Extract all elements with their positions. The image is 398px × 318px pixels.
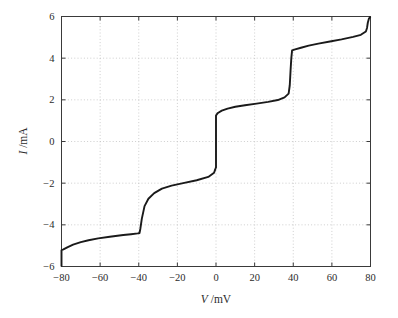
x-axis-label: V /mV (201, 293, 232, 305)
y-tick-label: 6 (49, 11, 54, 22)
chart-background (0, 0, 398, 318)
iv-curve-chart: −80−60−40−20020406080 −6−4−20246 V /mV I… (0, 0, 398, 318)
x-tick-label: 20 (249, 272, 260, 283)
y-tick-label: 0 (49, 136, 54, 147)
x-tick-label: 80 (365, 272, 376, 283)
y-tick-label: −2 (43, 178, 54, 189)
y-tick-label: −6 (43, 261, 54, 272)
x-tick-label: −20 (169, 272, 185, 283)
x-tick-label: −60 (92, 272, 108, 283)
y-tick-label: −4 (43, 219, 55, 230)
x-tick-label: −80 (53, 272, 69, 283)
x-tick-labels: −80−60−40−20020406080 (53, 272, 375, 283)
y-tick-label: 4 (49, 53, 55, 64)
y-axis-title: I /mA (17, 127, 29, 156)
y-axis-label: I /mA (17, 127, 29, 156)
x-tick-label: 40 (288, 272, 299, 283)
x-axis-title: V /mV (201, 293, 232, 305)
x-tick-label: −40 (131, 272, 147, 283)
chart-figure: −80−60−40−20020406080 −6−4−20246 V /mV I… (0, 0, 398, 318)
x-tick-label: 0 (213, 272, 218, 283)
y-tick-label: 2 (49, 94, 54, 105)
x-tick-label: 60 (327, 272, 338, 283)
